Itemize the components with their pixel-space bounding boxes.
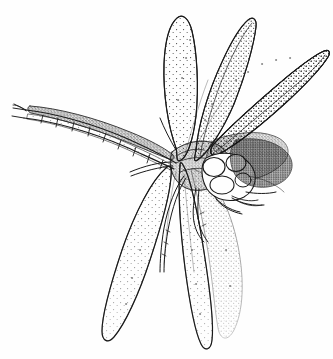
figure-plate: 5 (a) [0, 0, 333, 359]
compound-eye-left [203, 158, 225, 177]
dragonfly-illustration [0, 0, 333, 359]
